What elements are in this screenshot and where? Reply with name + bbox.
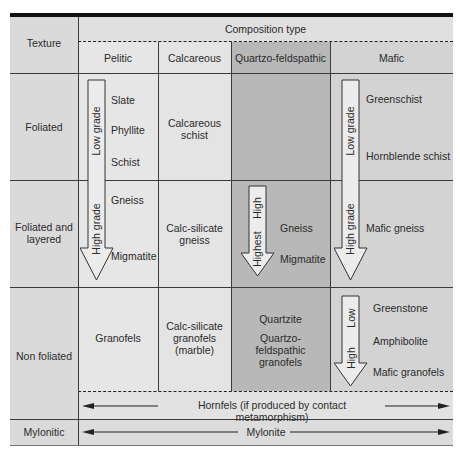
mafic-arrow-label-high-nf: High <box>345 338 357 378</box>
texture-non-foliated: Non foliated <box>10 350 78 362</box>
rock-qf-granofels: Quartzo-feldspathic granofels <box>235 332 326 368</box>
texture-header: Texture <box>10 37 78 49</box>
rock-calc-silicate-gneiss: Calc-silicate gneiss <box>163 222 226 246</box>
qf-arrow-label-highest: Highest <box>251 224 263 274</box>
mafic-arrow-label-low-nf: Low <box>345 298 357 338</box>
texture-mylonitic: Mylonitic <box>10 426 78 438</box>
rock-greenschist: Greenschist <box>366 93 422 105</box>
rock-mafic-granofels: Mafic granofels <box>373 366 444 378</box>
rock-calcareous-schist: Calcareous schist <box>163 117 226 141</box>
rock-gneiss-qf: Gneiss <box>280 222 313 234</box>
column-header-quartzo-feldspathic: Quartzo-feldspathic <box>231 52 330 64</box>
rock-phyllite: Phyllite <box>111 124 145 136</box>
header-top-bar <box>10 13 453 17</box>
hornfels-note: Hornfels (if produced by contact metamor… <box>160 399 384 423</box>
mafic-arrow-label-high: High grade <box>344 199 356 259</box>
rock-gneiss-pelitic: Gneiss <box>111 194 144 206</box>
rock-hornblende-schist: Hornblende schist <box>366 150 450 162</box>
texture-foliated: Foliated <box>10 121 78 133</box>
rock-greenstone: Greenstone <box>373 302 428 314</box>
rock-migmatite-qf: Migmatite <box>280 253 326 265</box>
pelitic-col-divider <box>158 42 159 391</box>
texture-col-divider <box>78 17 79 445</box>
pelitic-arrow-label-high: High grade <box>90 199 102 259</box>
calcareous-col-divider <box>231 42 232 391</box>
rock-calc-silicate-granofels: Calc-silicate granofels (marble) <box>163 320 226 356</box>
rock-granofels: Granofels <box>78 332 158 344</box>
rock-migmatite-pelitic: Migmatite <box>111 250 157 262</box>
hornfels-dashed-divider <box>78 391 453 392</box>
rock-slate: Slate <box>111 94 135 106</box>
column-header-pelitic: Pelitic <box>78 52 158 64</box>
qf-arrow-label-high: High <box>251 188 263 228</box>
header-dashed-divider <box>78 41 453 42</box>
rock-quartzite: Quartzite <box>231 313 330 325</box>
rock-schist: Schist <box>111 156 140 168</box>
column-header-mafic: Mafic <box>330 52 453 64</box>
pelitic-arrow-label-low: Low grade <box>90 101 102 161</box>
rock-amphibolite: Amphibolite <box>373 335 428 347</box>
column-header-calcareous: Calcareous <box>158 52 231 64</box>
table-bottom-line <box>10 445 453 446</box>
qf-col-divider <box>330 42 331 391</box>
mylonite-note: Mylonite <box>236 426 296 438</box>
rock-mafic-gneiss: Mafic gneiss <box>366 222 424 234</box>
mafic-arrow-label-low: Low grade <box>344 101 356 161</box>
composition-type-header: Composition type <box>78 23 453 35</box>
texture-foliated-layered: Foliated and layered <box>10 221 78 245</box>
